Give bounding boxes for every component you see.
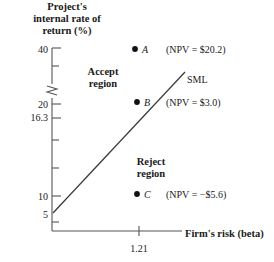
reject-region-line-2: region bbox=[120, 168, 182, 180]
y-tick-label-20: 20 bbox=[22, 99, 48, 110]
x-tick-label-1-21: 1.21 bbox=[122, 243, 156, 254]
data-point-a-marker bbox=[132, 46, 138, 52]
data-point-b-label: B bbox=[144, 97, 150, 108]
accept-region-line-1: Accept bbox=[72, 66, 134, 78]
sml-chart: Project's internal rate of return (%) 40… bbox=[0, 0, 274, 262]
data-point-c-label: C bbox=[144, 189, 151, 200]
axis-break-icon bbox=[47, 86, 57, 95]
data-point-c-marker bbox=[134, 191, 140, 197]
data-point-c-npv: (NPV = −$5.6) bbox=[166, 189, 226, 200]
y-tick-label-40: 40 bbox=[22, 44, 48, 55]
y-tick-label-10: 10 bbox=[22, 191, 48, 202]
data-point-a-npv: (NPV = $20.2) bbox=[166, 44, 226, 55]
accept-region-label: Accept region bbox=[72, 66, 134, 90]
chart-canvas bbox=[0, 0, 274, 262]
reject-region-line-1: Reject bbox=[120, 156, 182, 168]
data-point-a-label: A bbox=[142, 44, 148, 55]
x-axis-title: Firm's risk (beta) bbox=[185, 228, 264, 240]
data-point-b-npv: (NPV = $3.0) bbox=[166, 97, 221, 108]
accept-region-line-2: region bbox=[72, 78, 134, 90]
data-point-b-marker bbox=[134, 99, 140, 105]
reject-region-label: Reject region bbox=[120, 156, 182, 180]
y-tick-label-16-3: 16.3 bbox=[10, 112, 48, 123]
sml-label: SML bbox=[187, 74, 208, 85]
y-tick-label-5: 5 bbox=[22, 209, 48, 220]
